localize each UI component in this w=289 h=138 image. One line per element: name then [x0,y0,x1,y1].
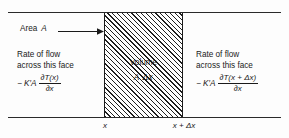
volume-label: Volume [104,58,183,67]
area-symbol: A [37,24,46,33]
right-flow-expression: − K′A ∂T(x + Δx) ∂x [196,74,258,94]
right-flow-coefficient: − K′A [196,79,218,90]
volume-expression: A Δx [104,73,183,82]
right-flow-derivative: ∂T(x + Δx) ∂x [218,74,259,94]
right-face-flow-annotation: Rate of flow across this face − K′A ∂T(x… [196,50,258,94]
right-flow-line1: Rate of flow [196,50,258,61]
bottom-boundary-line [8,117,281,118]
left-face-flow-annotation: Rate of flow across this face − K′A ∂T(x… [17,50,74,94]
right-flow-line2: across this face [196,61,258,72]
conduction-control-volume-figure: AreaA Rate of flow across this face − K′… [0,0,289,138]
axis-tick-x: x [103,121,107,130]
left-flow-line2: across this face [17,61,74,72]
left-flow-line1: Rate of flow [17,50,74,61]
area-label: AreaA [20,24,47,35]
axis-tick-x-plus-dx: x + Δx [173,121,195,130]
left-flow-coefficient: − K′A [17,79,39,90]
right-flow-numerator: ∂T(x + Δx) [218,74,259,83]
volume-caption: Volume A Δx [104,58,183,82]
left-flow-denominator: ∂x [39,83,61,93]
left-flow-derivative: ∂T(x) ∂x [39,74,61,94]
left-flow-numerator: ∂T(x) [39,74,61,83]
right-flow-denominator: ∂x [218,83,259,93]
area-arrow-icon [58,26,104,37]
left-flow-expression: − K′A ∂T(x) ∂x [17,74,74,94]
area-label-text: Area [20,24,37,33]
